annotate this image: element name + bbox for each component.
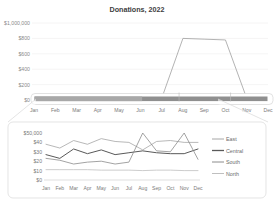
donations-figure: Donations, 2022$1,000,000$800$600$400$20… xyxy=(0,0,274,210)
detail-xtick-label: Jun xyxy=(111,185,119,191)
overview-xtick-label: Sep xyxy=(200,107,209,113)
detail-xtick-label: Feb xyxy=(55,185,64,191)
overview-ytick-label: $200 xyxy=(18,82,30,88)
overview-ytick-label: $0 xyxy=(24,97,30,103)
overview-xtick-label: Feb xyxy=(51,107,60,113)
overview-xtick-label: May xyxy=(114,107,124,113)
overview-xtick-label: Aug xyxy=(178,107,187,113)
detail-ytick-label: $30 xyxy=(34,149,43,155)
detail-xtick-label: Jul xyxy=(126,185,133,191)
overview-xtick-label: Jan xyxy=(30,107,38,113)
overview-ytick-label: $1,000,000 xyxy=(4,20,30,26)
overview-xtick-label: Jun xyxy=(136,107,144,113)
overview-title: Donations, 2022 xyxy=(109,5,164,14)
legend-label-east: East xyxy=(226,136,237,142)
chart-canvas: Donations, 2022$1,000,000$800$600$400$20… xyxy=(0,0,274,210)
detail-ytick-label: $0 xyxy=(36,177,42,183)
detail-ytick-label: $20 xyxy=(34,158,43,164)
detail-xtick-label: Jan xyxy=(42,185,50,191)
detail-ytick-label: $50,000 xyxy=(24,130,43,136)
legend-label-south: South xyxy=(226,159,240,165)
overview-series-south xyxy=(34,38,268,98)
detail-ytick-label: $40 xyxy=(34,139,43,145)
overview-xtick-label: Mar xyxy=(72,107,81,113)
overview-ytick-label: $400 xyxy=(18,66,30,72)
detail-xtick-label: Oct xyxy=(166,185,175,191)
detail-xtick-label: May xyxy=(96,185,106,191)
overview-xtick-label: Apr xyxy=(94,107,102,113)
detail-xtick-label: Dec xyxy=(193,185,203,191)
detail-ytick-label: $10 xyxy=(34,168,43,174)
legend-label-central: Central xyxy=(226,148,243,154)
detail-xtick-label: Apr xyxy=(83,185,91,191)
detail-xtick-label: Nov xyxy=(180,185,190,191)
overview-ytick-label: $600 xyxy=(18,51,30,57)
detail-xtick-label: Aug xyxy=(138,185,147,191)
overview-xtick-label: Dec xyxy=(263,107,273,113)
detail-xtick-label: Mar xyxy=(69,185,78,191)
detail-xtick-label: Sep xyxy=(152,185,161,191)
overview-xtick-label: Jul xyxy=(158,107,165,113)
legend-label-north: North xyxy=(226,171,239,177)
overview-ytick-label: $800 xyxy=(18,35,30,41)
range-selector-thumb-left[interactable] xyxy=(35,97,143,102)
